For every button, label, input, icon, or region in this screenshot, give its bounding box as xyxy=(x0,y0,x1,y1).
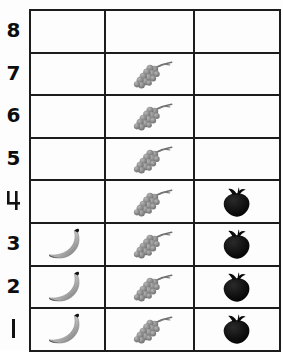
pictograph-row xyxy=(31,139,281,182)
pictograph-row xyxy=(31,11,281,54)
pictograph-cell-banana-8 xyxy=(31,11,106,52)
pictograph-cell-grapes-5 xyxy=(106,139,194,180)
strawberry-icon xyxy=(195,309,279,350)
grapes-icon xyxy=(106,224,192,265)
y-axis-tick-8: 8 xyxy=(0,9,27,52)
grapes-icon xyxy=(106,139,192,180)
pictograph-row xyxy=(31,224,281,267)
y-axis-tick-3: 3 xyxy=(0,222,27,265)
y-axis-tick-1 xyxy=(0,307,27,350)
pictograph-cell-grapes-6 xyxy=(106,96,194,137)
y-axis-tick-2: 2 xyxy=(0,265,27,308)
pictograph-cell-grapes-4 xyxy=(106,181,194,222)
grapes-icon xyxy=(106,54,192,95)
pictograph-cell-strawberry-1 xyxy=(195,309,281,350)
y-axis-tick-6: 6 xyxy=(0,94,27,137)
banana-icon xyxy=(31,224,104,265)
pictograph-cell-banana-5 xyxy=(31,139,106,180)
y-axis-tick-4 xyxy=(0,179,27,222)
pictograph-cell-strawberry-2 xyxy=(195,267,281,308)
strawberry-icon xyxy=(195,181,279,222)
pictograph-row xyxy=(31,309,281,352)
strawberry-icon xyxy=(195,224,279,265)
pictograph-cell-banana-2 xyxy=(31,267,106,308)
strawberry-icon xyxy=(195,267,279,308)
grapes-icon xyxy=(106,181,192,222)
pictograph-row xyxy=(31,267,281,310)
pictograph-cell-banana-7 xyxy=(31,54,106,95)
grapes-icon xyxy=(106,267,192,308)
pictograph-cell-banana-4 xyxy=(31,181,106,222)
pictograph-cell-strawberry-7 xyxy=(195,54,281,95)
pictograph-cell-grapes-3 xyxy=(106,224,194,265)
pictograph-row xyxy=(31,96,281,139)
grapes-icon xyxy=(106,309,192,350)
pictograph-cell-banana-1 xyxy=(31,309,106,350)
pictograph-cell-strawberry-4 xyxy=(195,181,281,222)
pictograph-row xyxy=(31,54,281,97)
y-axis-tick-5: 5 xyxy=(0,137,27,180)
pictograph-cell-strawberry-8 xyxy=(195,11,281,52)
pictograph-cell-grapes-8 xyxy=(106,11,194,52)
pictograph-cell-strawberry-6 xyxy=(195,96,281,137)
y-axis-tick-7: 7 xyxy=(0,52,27,95)
grapes-icon xyxy=(106,96,192,137)
pictograph-grid xyxy=(29,9,281,352)
y-axis: 8 7 6 5 3 2 xyxy=(0,9,29,350)
banana-icon xyxy=(31,309,104,350)
pictograph-cell-grapes-1 xyxy=(106,309,194,350)
pictograph-cell-grapes-7 xyxy=(106,54,194,95)
banana-icon xyxy=(31,267,104,308)
pictograph-cell-grapes-2 xyxy=(106,267,194,308)
pictograph-cell-banana-3 xyxy=(31,224,106,265)
pictograph-cell-strawberry-5 xyxy=(195,139,281,180)
pictograph-cell-strawberry-3 xyxy=(195,224,281,265)
pictograph-row xyxy=(31,181,281,224)
pictograph-cell-banana-6 xyxy=(31,96,106,137)
